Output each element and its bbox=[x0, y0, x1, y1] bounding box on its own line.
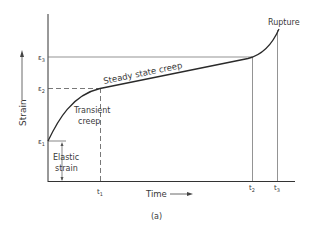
svg-text:ε1: ε1 bbox=[38, 138, 45, 147]
elastic-strain-label-line1: Elastic bbox=[53, 153, 79, 162]
strain-label: Strain bbox=[18, 99, 28, 126]
creep-diagram: Strain Time ε3 ε2 ε1 t1 t2 t3 Rupture bbox=[0, 0, 313, 237]
svg-text:ε2: ε2 bbox=[38, 85, 45, 94]
figure-caption: (a) bbox=[151, 212, 162, 221]
strain-mark-e1: ε1 bbox=[38, 138, 45, 147]
x-axis-label: Time bbox=[145, 189, 193, 199]
steady-state-label: Steady state creep bbox=[102, 60, 183, 86]
time-mark-t3: t3 bbox=[274, 184, 280, 193]
time-mark-t2: t2 bbox=[249, 184, 255, 193]
svg-text:t1: t1 bbox=[97, 188, 103, 197]
strain-mark-e3: ε3 bbox=[38, 54, 45, 63]
transient-creep-label-line2: creep bbox=[78, 117, 100, 126]
transient-creep-label-line1: Transient bbox=[73, 106, 111, 115]
rupture-label: Rupture bbox=[268, 18, 300, 27]
svg-text:t3: t3 bbox=[274, 184, 280, 193]
time-label: Time bbox=[145, 189, 167, 199]
elastic-strain-label-line2: strain bbox=[55, 164, 78, 173]
time-mark-t1: t1 bbox=[97, 188, 103, 197]
y-axis-label: Strain bbox=[18, 50, 28, 126]
svg-text:t2: t2 bbox=[249, 184, 255, 193]
strain-mark-e2: ε2 bbox=[38, 85, 45, 94]
svg-text:ε3: ε3 bbox=[38, 54, 45, 63]
